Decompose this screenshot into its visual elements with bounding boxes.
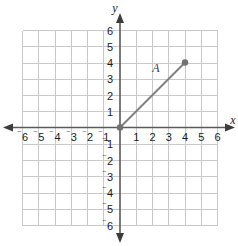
y-tick-label: 3 <box>107 73 113 85</box>
x-axis-positive-tick-labels: 1 2 3 4 5 6 <box>133 131 220 143</box>
x-tick-label: ⁻2 <box>82 128 93 143</box>
segment-a-endpoint-upper <box>182 59 188 65</box>
y-axis-down-arrow-icon <box>116 233 124 243</box>
y-tick-label: 4 <box>107 57 113 69</box>
x-axis-negative-tick-labels: ⁻6 ⁻5 ⁻4 ⁻3 ⁻2 ⁻1 <box>17 128 109 143</box>
y-tick-label: 2 <box>107 90 113 102</box>
y-tick-label: ⁻6 <box>102 217 113 232</box>
coordinate-plane-figure: y x ⁻6 ⁻5 ⁻4 ⁻3 ⁻2 ⁻1 1 2 3 4 5 6 6 5 4 … <box>0 0 238 246</box>
segment-a-label: A <box>151 61 160 75</box>
x-tick-label: 2 <box>149 131 155 143</box>
y-axis-positive-tick-labels: 6 5 4 3 2 1 <box>107 25 113 118</box>
x-tick-label: 3 <box>166 131 172 143</box>
x-tick-label: ⁻5 <box>33 128 44 143</box>
x-tick-label: 1 <box>133 131 139 143</box>
y-axis-label: y <box>111 1 118 15</box>
x-axis-left-arrow-icon <box>3 124 13 132</box>
x-tick-label: ⁻3 <box>66 128 77 143</box>
y-tick-label: 1 <box>107 106 113 118</box>
coordinate-grid-svg: y x ⁻6 ⁻5 ⁻4 ⁻3 ⁻2 ⁻1 1 2 3 4 5 6 6 5 4 … <box>0 0 238 246</box>
x-axis-label: x <box>229 113 236 127</box>
x-tick-label: ⁻4 <box>49 128 60 143</box>
segment-a-endpoint-origin <box>117 124 123 130</box>
x-tick-label: 5 <box>198 131 204 143</box>
x-tick-label: 4 <box>182 131 188 143</box>
y-tick-label: 5 <box>107 41 113 53</box>
x-tick-label: 6 <box>214 131 220 143</box>
y-tick-label: 6 <box>107 25 113 37</box>
x-tick-label: ⁻6 <box>17 128 28 143</box>
